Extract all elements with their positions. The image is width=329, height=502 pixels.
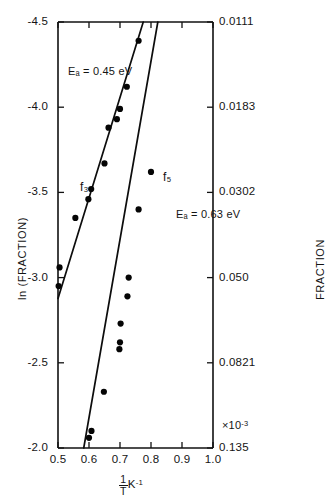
data-points-group <box>56 38 155 441</box>
data-point-f3 <box>72 215 78 221</box>
data-point-f3 <box>105 125 111 131</box>
data-point-f5 <box>126 275 132 281</box>
data-point-f3 <box>101 160 107 166</box>
data-point-f5 <box>117 339 123 345</box>
y-tick-label-right: 0.0111 <box>219 15 254 27</box>
y-axis-left-title: ln (FRACTION) <box>16 217 28 300</box>
series-label-f5: f₅ <box>163 170 172 184</box>
series-label-f3: f₃ <box>80 180 89 194</box>
y-tick-label-right: 0.135 <box>219 441 249 453</box>
data-point-f5 <box>88 428 94 434</box>
data-point-f3 <box>124 84 130 90</box>
y-tick-label-right: 0.0821 <box>219 356 255 368</box>
x-axis-title-fraction: 1 T <box>119 474 128 496</box>
y-axis-right-title: FRACTION <box>314 239 326 300</box>
plot-canvas <box>0 0 329 502</box>
y-tick-label-left: -2.0 <box>0 441 48 453</box>
y-tick-label-right: 0.0183 <box>219 100 255 112</box>
x-axis-title-unit-exponent: -1 <box>136 478 144 487</box>
data-point-f3 <box>88 186 94 192</box>
data-point-f3 <box>56 283 62 289</box>
y-tick-label-right: 0.050 <box>219 271 249 283</box>
annotation-ea-f3: Eₐ = 0.45 eV <box>68 65 132 77</box>
x-tick-label: 1.0 <box>195 453 231 465</box>
ticks-group <box>58 22 213 448</box>
x-axis-multiplier-exponent: -3 <box>241 419 248 428</box>
y-tick-label-left: -3.5 <box>0 185 48 197</box>
arrhenius-plot-figure: -4.5-4.0-3.5-3.0-2.5-2.0 0.01110.01830.0… <box>0 0 329 502</box>
data-point-f5 <box>124 293 130 299</box>
y-tick-label-right: 0.0302 <box>219 185 255 197</box>
x-axis-title-unit: K <box>128 478 136 490</box>
x-axis-multiplier-base: ×10 <box>222 419 241 431</box>
data-point-f3 <box>56 264 62 270</box>
x-axis-title-denominator: T <box>119 486 128 497</box>
x-axis-title: 1 T K-1 <box>119 474 143 496</box>
data-point-f3 <box>117 106 123 112</box>
fit-lines-group <box>58 22 158 448</box>
data-point-f5 <box>86 435 92 441</box>
data-point-f3 <box>114 116 120 122</box>
data-point-f3 <box>136 38 142 44</box>
y-tick-label-left: -4.5 <box>0 15 48 27</box>
data-point-f5 <box>148 169 154 175</box>
data-point-f3 <box>85 196 91 202</box>
axes-group <box>58 22 213 448</box>
y-tick-label-left: -2.5 <box>0 356 48 368</box>
x-axis-title-numerator: 1 <box>119 474 128 486</box>
data-point-f5 <box>101 389 107 395</box>
data-point-f5 <box>136 206 142 212</box>
y-tick-label-left: -4.0 <box>0 100 48 112</box>
fit-line-f5 <box>84 22 158 448</box>
data-point-f5 <box>118 321 124 327</box>
x-axis-multiplier: ×10-3 <box>222 419 248 431</box>
data-point-f5 <box>116 346 122 352</box>
annotation-ea-f5: Eₐ = 0.63 eV <box>176 208 240 220</box>
fit-line-f3 <box>58 22 143 298</box>
